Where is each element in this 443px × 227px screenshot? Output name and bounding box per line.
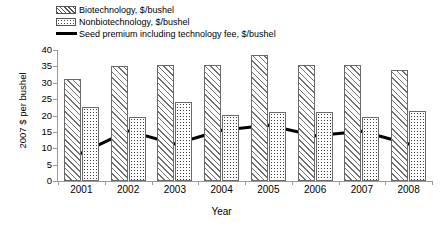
bar-biotechnology — [298, 65, 315, 181]
bar-biotechnology — [111, 66, 128, 181]
x-tick-label: 2006 — [290, 184, 340, 195]
legend-label-biotechnology: Biotechnology, $/bushel — [79, 5, 174, 15]
x-tick-label: 2005 — [243, 184, 293, 195]
y-tick-mark — [53, 50, 57, 51]
bar-biotechnology — [344, 65, 361, 181]
x-tick-mark — [105, 181, 106, 185]
y-tick-mark — [53, 148, 57, 149]
y-tick-mark — [53, 181, 57, 182]
y-tick-label: 15 — [8, 126, 52, 137]
legend-label-nonbiotechnology: Nonbiotechnology, $/bushel — [79, 17, 189, 27]
y-tick-mark — [53, 66, 57, 67]
y-tick-label: 30 — [8, 77, 52, 88]
x-tick-mark — [339, 181, 340, 185]
x-tick-label: 2008 — [384, 184, 434, 195]
chart-legend: Biotechnology, $/bushel Nonbiotechnology… — [56, 4, 276, 40]
x-tick-label: 2002 — [103, 184, 153, 195]
y-tick-label: 35 — [8, 60, 52, 71]
bar-biotechnology — [251, 55, 268, 181]
legend-item-biotechnology: Biotechnology, $/bushel — [56, 4, 276, 15]
line-swatch-icon — [56, 32, 77, 35]
plot-area — [58, 50, 432, 181]
legend-item-nonbiotechnology: Nonbiotechnology, $/bushel — [56, 16, 276, 27]
x-tick-mark — [292, 181, 293, 185]
bar-biotechnology — [64, 79, 81, 181]
bar-nonbiotechnology — [175, 102, 192, 181]
y-tick-mark — [53, 165, 57, 166]
y-tick-label: 0 — [8, 175, 52, 186]
x-tick-label: 2007 — [337, 184, 387, 195]
y-tick-label: 10 — [8, 142, 52, 153]
y-tick-mark — [53, 99, 57, 100]
hatch-swatch-icon — [56, 6, 76, 14]
y-tick-label: 40 — [8, 44, 52, 55]
y-tick-label: 20 — [8, 110, 52, 121]
y-tick-mark — [53, 83, 57, 84]
x-tick-mark — [385, 181, 386, 185]
seed-price-chart: Biotechnology, $/bushel Nonbiotechnology… — [0, 0, 443, 227]
legend-item-seed-premium: Seed premium including technology fee, $… — [56, 28, 276, 39]
bar-nonbiotechnology — [269, 112, 286, 181]
bar-nonbiotechnology — [222, 115, 239, 181]
x-tick-mark — [245, 181, 246, 185]
x-tick-mark — [198, 181, 199, 185]
y-tick-label: 5 — [8, 159, 52, 170]
bar-nonbiotechnology — [316, 112, 333, 181]
x-tick-mark — [152, 181, 153, 185]
y-tick-mark — [53, 116, 57, 117]
x-tick-label: 2004 — [197, 184, 247, 195]
bar-biotechnology — [391, 70, 408, 181]
bar-biotechnology — [204, 65, 221, 181]
x-tick-mark — [432, 181, 433, 185]
x-tick-label: 2003 — [150, 184, 200, 195]
y-tick-mark — [53, 132, 57, 133]
x-axis-title: Year — [0, 206, 443, 217]
legend-label-seed-premium: Seed premium including technology fee, $… — [79, 29, 276, 39]
x-tick-label: 2001 — [56, 184, 106, 195]
bar-nonbiotechnology — [362, 117, 379, 181]
x-tick-mark — [58, 181, 59, 185]
bar-nonbiotechnology — [129, 117, 146, 181]
bar-biotechnology — [157, 65, 174, 181]
bar-nonbiotechnology — [82, 107, 99, 181]
bar-nonbiotechnology — [409, 111, 426, 181]
y-tick-label: 25 — [8, 93, 52, 104]
dot-swatch-icon — [56, 18, 76, 26]
